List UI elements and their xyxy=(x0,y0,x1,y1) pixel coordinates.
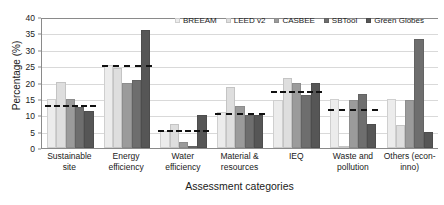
bar-group xyxy=(268,18,325,148)
x-tick-label: Material &resources xyxy=(211,151,268,172)
average-line xyxy=(328,109,379,111)
average-line xyxy=(102,65,153,67)
bar-group xyxy=(155,18,212,148)
bar-group xyxy=(212,18,269,148)
bar xyxy=(349,100,358,148)
bars xyxy=(99,18,156,148)
legend-label: SBTool xyxy=(332,16,357,25)
legend-swatch xyxy=(324,18,329,23)
bar-group xyxy=(42,18,99,148)
average-line xyxy=(215,113,266,115)
bar xyxy=(141,30,150,148)
x-tick-label: Waste andpollution xyxy=(325,151,382,172)
legend-item: CASBEE xyxy=(274,16,314,25)
legend-label: BREEAM xyxy=(183,16,217,25)
bars xyxy=(325,18,382,148)
bar-group xyxy=(99,18,156,148)
plot-area xyxy=(41,18,438,149)
bar xyxy=(311,83,320,148)
bar-group xyxy=(381,18,438,148)
y-tick-label: 30 xyxy=(15,46,35,56)
y-tick-label: 10 xyxy=(15,111,35,121)
y-tick-label: 15 xyxy=(15,95,35,105)
bar xyxy=(179,142,188,148)
x-tick-label: Sustainable site xyxy=(41,151,98,172)
bar xyxy=(75,107,84,148)
bar xyxy=(122,83,131,149)
x-axis-tick-labels: Sustainable siteEnergyefficiencyWatereff… xyxy=(41,151,438,172)
legend-item: SBTool xyxy=(324,16,357,25)
chart-legend: BREEAMLEED v2CASBEESBToolGreen Globes xyxy=(175,16,424,25)
bar xyxy=(226,87,235,148)
bar xyxy=(339,146,348,148)
bar xyxy=(132,80,141,148)
bar xyxy=(104,65,113,148)
bars xyxy=(42,18,99,148)
bar-group xyxy=(325,18,382,148)
bar xyxy=(414,39,423,148)
bar xyxy=(56,82,65,148)
x-axis-title: Assessment categories xyxy=(41,180,438,192)
legend-swatch xyxy=(226,18,231,23)
bar xyxy=(170,124,179,148)
bar xyxy=(245,115,254,148)
legend-item: LEED v2 xyxy=(226,16,266,25)
bar xyxy=(358,94,367,148)
legend-swatch xyxy=(175,18,180,23)
x-tick-label: Others (econ-inno) xyxy=(381,151,438,172)
bar xyxy=(301,95,310,148)
bar xyxy=(330,99,339,148)
bar xyxy=(387,99,396,148)
legend-swatch xyxy=(274,18,279,23)
bar xyxy=(424,132,433,148)
bars xyxy=(381,18,438,148)
bar xyxy=(217,112,226,148)
legend-label: CASBEE xyxy=(282,16,314,25)
bar xyxy=(405,100,414,148)
average-line xyxy=(45,105,96,107)
legend-label: Green Globes xyxy=(374,16,424,25)
bar xyxy=(160,131,169,148)
bars xyxy=(155,18,212,148)
bar xyxy=(367,124,376,148)
y-tick-label: 40 xyxy=(15,13,35,23)
bars xyxy=(268,18,325,148)
y-tick-label: 5 xyxy=(15,128,35,138)
bar xyxy=(396,125,405,148)
bar xyxy=(292,83,301,148)
legend-item: BREEAM xyxy=(175,16,217,25)
average-line xyxy=(158,130,209,132)
bar xyxy=(113,68,122,148)
legend-swatch xyxy=(366,18,371,23)
bar xyxy=(273,100,282,148)
y-tick-label: 0 xyxy=(15,144,35,154)
x-tick-label: Waterefficiency xyxy=(154,151,211,172)
x-tick-label: Energyefficiency xyxy=(98,151,155,172)
y-tick-label: 20 xyxy=(15,79,35,89)
bar xyxy=(188,146,197,148)
y-tick-label: 35 xyxy=(15,29,35,39)
x-tick-label: IEQ xyxy=(268,151,325,172)
bars xyxy=(212,18,269,148)
legend-label: LEED v2 xyxy=(234,16,266,25)
legend-item: Green Globes xyxy=(366,16,424,25)
average-line xyxy=(271,91,322,93)
bar-groups xyxy=(42,18,438,148)
bar-chart: Percentage (%) 0510152025303540 Sustaina… xyxy=(0,0,444,205)
y-tick-label: 25 xyxy=(15,62,35,72)
bar xyxy=(283,78,292,148)
bar xyxy=(254,115,263,148)
bar xyxy=(84,111,93,148)
